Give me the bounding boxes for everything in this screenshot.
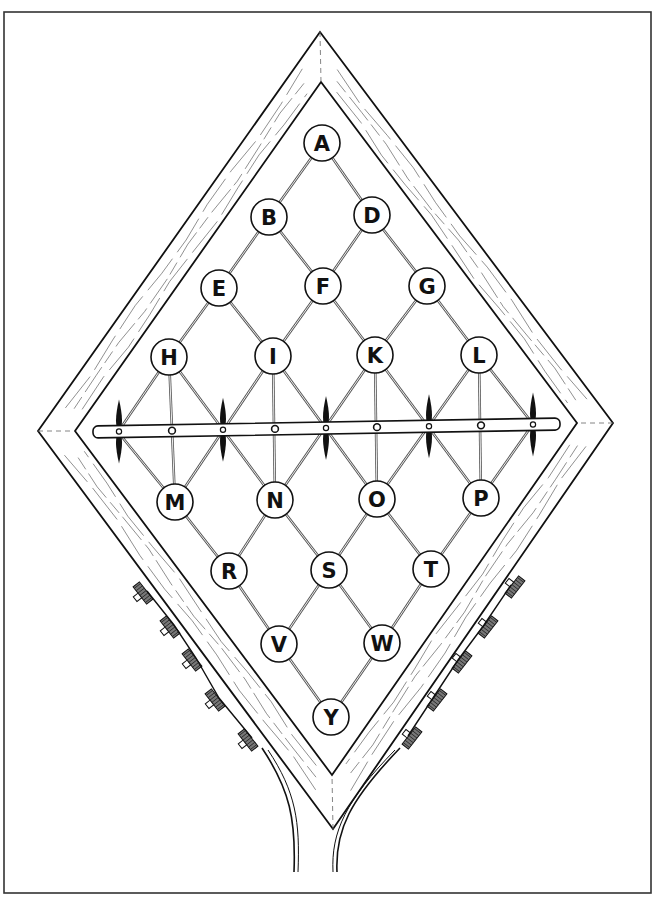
bar-hole bbox=[478, 422, 485, 429]
node-r: R bbox=[211, 553, 247, 589]
node-label: T bbox=[424, 558, 439, 582]
node-label: N bbox=[266, 489, 284, 513]
node-label: W bbox=[370, 632, 393, 656]
tuning-peg-icon bbox=[233, 729, 258, 755]
bar-hole bbox=[374, 424, 381, 431]
node-label: G bbox=[418, 275, 435, 299]
node-label: Y bbox=[322, 706, 339, 730]
node-label: E bbox=[212, 277, 226, 301]
node-d: D bbox=[354, 197, 390, 233]
node-m: M bbox=[157, 484, 193, 520]
node-label: I bbox=[269, 345, 277, 369]
node-label: P bbox=[473, 487, 488, 511]
node-v: V bbox=[261, 626, 297, 662]
node-label: V bbox=[271, 633, 288, 657]
node-label: L bbox=[472, 344, 485, 368]
pivot-dot bbox=[323, 425, 328, 430]
node-p: P bbox=[463, 480, 499, 516]
node-label: S bbox=[321, 559, 336, 583]
node-e: E bbox=[201, 270, 237, 306]
pivot-dot bbox=[116, 429, 121, 434]
node-label: H bbox=[160, 346, 178, 370]
node-l: L bbox=[461, 337, 497, 373]
bar-hole bbox=[169, 427, 176, 434]
pivot-dot bbox=[426, 424, 431, 429]
diamond-lattice-figure: ABDEFGHIKLMNOPRSTVWY bbox=[0, 0, 659, 911]
tuning-peg-icon bbox=[200, 689, 225, 715]
pivot-dot bbox=[530, 422, 535, 427]
node-g: G bbox=[409, 268, 445, 304]
node-w: W bbox=[364, 625, 400, 661]
node-s: S bbox=[311, 552, 347, 588]
node-n: N bbox=[257, 482, 293, 518]
pivot-dot bbox=[220, 427, 225, 432]
node-label: D bbox=[363, 204, 380, 228]
node-h: H bbox=[151, 339, 187, 375]
node-y: Y bbox=[313, 699, 349, 735]
node-o: O bbox=[359, 481, 395, 517]
bar-hole bbox=[272, 425, 279, 432]
node-a: A bbox=[304, 125, 340, 161]
node-label: F bbox=[316, 275, 330, 299]
node-label: K bbox=[367, 344, 384, 368]
node-label: B bbox=[261, 206, 277, 230]
node-i: I bbox=[255, 338, 291, 374]
node-b: B bbox=[251, 199, 287, 235]
node-label: O bbox=[368, 488, 386, 512]
node-label: R bbox=[221, 560, 237, 584]
node-t: T bbox=[413, 551, 449, 587]
node-k: K bbox=[357, 337, 393, 373]
node-label: A bbox=[314, 132, 331, 156]
node-f: F bbox=[305, 268, 341, 304]
node-label: M bbox=[165, 491, 186, 515]
